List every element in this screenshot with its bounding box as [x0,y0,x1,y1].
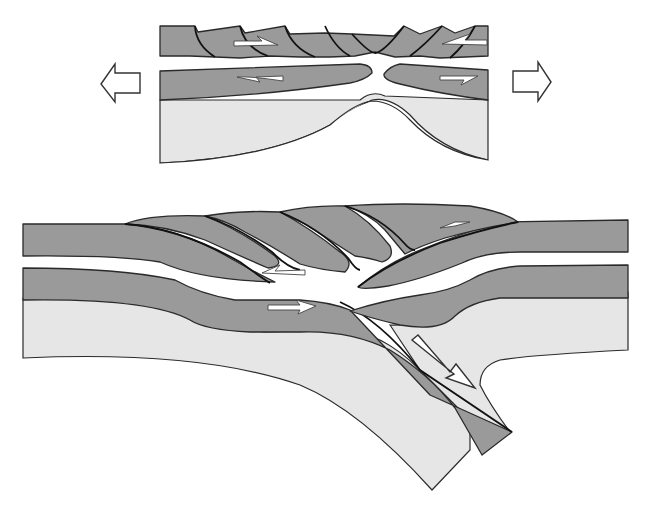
top-middle-layer-right [384,64,488,100]
top-middle-layer-left [160,64,372,100]
top-panel [101,26,551,170]
extension-right-arrow-icon [513,62,551,101]
bottom-panel [23,204,628,490]
extension-left-arrow-icon [101,64,140,102]
diagram-stage [0,0,647,509]
